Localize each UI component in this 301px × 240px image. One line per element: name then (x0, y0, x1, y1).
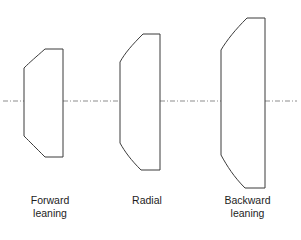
blade-profile-backward-leaning (221, 18, 265, 188)
blade-profile-forward-leaning (24, 49, 63, 157)
caption-radial: Radial (105, 194, 189, 207)
caption-forward-leaning: Forward leaning (8, 194, 92, 220)
fan-blade-diagram: Forward leaning Radial Backward leaning (0, 0, 301, 240)
blade-profile-radial (120, 34, 160, 170)
caption-backward-leaning: Backward leaning (200, 194, 295, 220)
